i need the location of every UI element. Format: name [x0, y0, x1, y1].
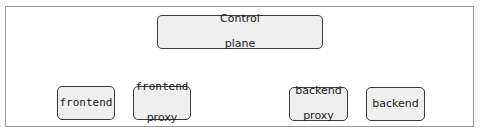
- backend-proxy-node: backend proxy: [289, 87, 348, 121]
- frontend-proxy-node: frontend proxy: [133, 86, 191, 120]
- frontend-proxy-label: frontend proxy: [136, 63, 189, 134]
- frontend-node: frontend: [57, 86, 115, 120]
- control-plane-node: Control plane: [157, 15, 323, 49]
- frontend-label: frontend: [60, 84, 113, 122]
- control-plane-label: Control plane: [220, 0, 260, 63]
- backend-label: backend: [372, 85, 418, 123]
- backend-proxy-label: backend proxy: [295, 72, 341, 134]
- backend-node: backend: [366, 87, 425, 121]
